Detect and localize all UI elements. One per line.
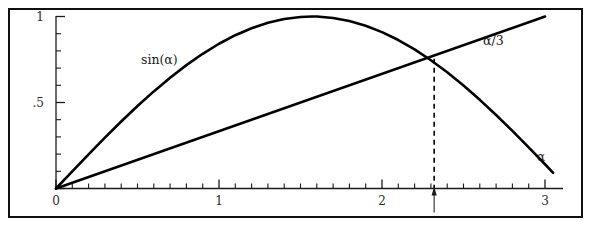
y-axis-ticks — [56, 17, 65, 189]
x-axis-ticks — [56, 180, 545, 189]
y-tick-label-1: 1 — [36, 10, 44, 24]
sin-curve-label: sin(α) — [141, 52, 178, 67]
y-tick-label-half: .5 — [33, 96, 44, 110]
figure-root: 1 .5 0 1 2 3 sin(α) α/3 α — [0, 0, 596, 229]
x-tick-label-1: 1 — [215, 194, 223, 208]
x-axis-name-label: α — [537, 150, 545, 164]
x-tick-label-0: 0 — [52, 194, 60, 208]
alpha-over-3-line — [56, 17, 545, 189]
plot-canvas: 1 .5 0 1 2 3 sin(α) α/3 α — [0, 0, 596, 229]
x-tick-label-2: 2 — [378, 194, 386, 208]
alpha-over-3-label: α/3 — [483, 33, 504, 48]
x-tick-label-3: 3 — [541, 194, 549, 208]
